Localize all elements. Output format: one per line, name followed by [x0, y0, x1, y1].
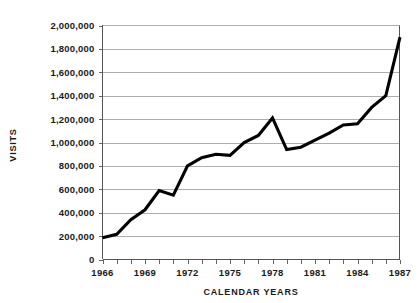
y-tick-label: 800,000 [59, 160, 95, 171]
x-tick-label: 1969 [134, 267, 156, 278]
y-tick-label: 200,000 [59, 231, 95, 242]
chart-container: 0200,000400,000600,000800,0001,000,0001,… [0, 0, 420, 303]
y-axis-title: VISITS [8, 128, 18, 161]
y-tick-label: 1,800,000 [50, 43, 94, 54]
x-axis-title: CALENDAR YEARS [203, 287, 298, 297]
y-tick-label: 400,000 [59, 207, 95, 218]
x-tick-label: 1984 [346, 267, 369, 278]
x-tick-label: 1987 [389, 267, 411, 278]
y-tick-label: 0 [89, 254, 94, 265]
y-tick-label: 1,000,000 [50, 137, 94, 148]
x-tick-label: 1978 [261, 267, 283, 278]
y-tick-label: 1,400,000 [50, 90, 94, 101]
y-tick-label: 1,600,000 [50, 67, 94, 78]
x-tick-label: 1966 [91, 267, 113, 278]
line-chart: 0200,000400,000600,000800,0001,000,0001,… [0, 0, 420, 303]
y-tick-label: 1,200,000 [50, 114, 94, 125]
x-tick-label: 1981 [304, 267, 327, 278]
x-tick-label: 1975 [219, 267, 242, 278]
y-tick-label: 600,000 [59, 184, 95, 195]
y-tick-label: 2,000,000 [50, 20, 94, 31]
x-tick-label: 1972 [176, 267, 198, 278]
